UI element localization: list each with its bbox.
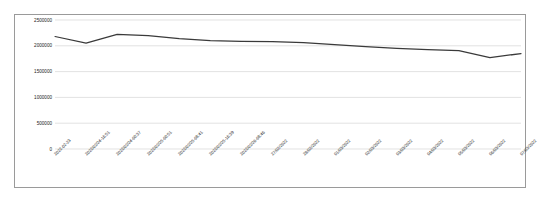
y-axis-tick-labels: 05000001000000150000020000002500000 bbox=[34, 18, 52, 152]
y-axis-tick-label: 500000 bbox=[37, 121, 53, 126]
y-axis-tick-label: 1500000 bbox=[34, 69, 52, 74]
y-axis-tick-label: 1000000 bbox=[34, 95, 52, 100]
chart-container: 05000001000000150000020000002500000 bbox=[14, 14, 526, 188]
y-axis-tick-label: 0 bbox=[49, 147, 52, 152]
line-chart-plot: 05000001000000150000020000002500000 bbox=[15, 15, 527, 189]
gridlines bbox=[55, 20, 521, 149]
y-axis-tick-label: 2500000 bbox=[34, 18, 52, 23]
y-axis-tick-label: 2000000 bbox=[34, 43, 52, 48]
